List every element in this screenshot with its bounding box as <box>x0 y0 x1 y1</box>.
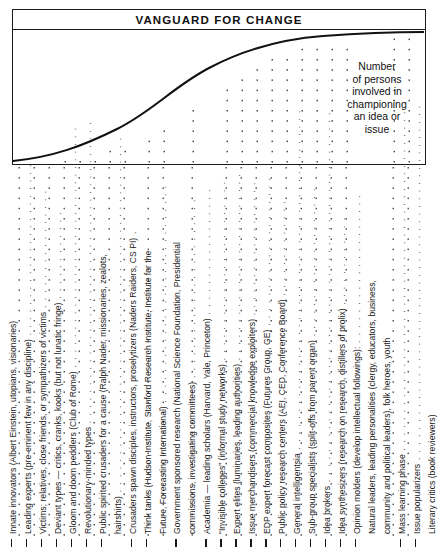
leader-dots: . . . . . . . . . . . . . . . . . . . . … <box>323 111 332 486</box>
tick-mark-row <box>12 539 426 551</box>
axis-label-revolutionary-minded-types: Revolutionary-minded types . . . . . . .… <box>84 121 93 534</box>
tick-opinion-molders <box>355 539 356 547</box>
axis-label-public-spirited-crusaders-cont: hairshirts) . . . . . . . . . . . . . . … <box>114 137 123 534</box>
axis-label-expert-elites: Expert elites (luminaries, leading autho… <box>233 173 242 534</box>
tick-government-sponsored-research <box>175 539 176 547</box>
leader-dots: . . . . . . . . . . . . . . . . . . . . … <box>218 180 227 364</box>
tick-expert-elites <box>235 539 236 547</box>
axis-label-text: Public policy research centers (AEI, CED… <box>277 299 287 534</box>
axis-label-think-tanks-cont: Future, Forecasting International) . . .… <box>159 184 168 534</box>
axis-label-innate-innovators: Innate innovators (Albert Einstein, utop… <box>9 321 18 534</box>
tick-crusaders-spawn-disciples <box>131 539 132 547</box>
tick-issue-popularizers <box>415 539 416 547</box>
leader-dots: . . . . . . . . . . . . . . . . . . . . … <box>159 184 168 406</box>
leader-dots: . . . . . . . . . . . . . . . . . <box>203 188 212 318</box>
axis-label-text: EDP expert forecast composites (Futures … <box>262 330 272 534</box>
tick-leading-experts <box>26 539 27 547</box>
tick-public-spirited-crusaders <box>101 539 102 547</box>
tick-invisible-colleges <box>220 539 221 547</box>
tick-issue-merchandisers <box>250 539 251 547</box>
leader-dots: . . . . . . . . . . . . <box>338 216 347 308</box>
axis-label-text: Government sponsored research (National … <box>172 242 182 534</box>
tick-idea-brokers <box>325 539 326 547</box>
axis-label-issue-popularizers: Issue popularizers . . . . . . . . . . .… <box>413 104 422 534</box>
axis-label-deviant-types: Deviant types — critics, cranks, kooks (… <box>54 211 63 534</box>
axis-label-text: Idea synthesizers (research on research,… <box>337 308 347 534</box>
axis-label-government-sponsored-research-cont: commissions, investigating committees) .… <box>188 198 197 534</box>
tick-general-intelligentsia <box>295 539 296 547</box>
tick-deviant-types <box>56 539 57 547</box>
axis-label-public-policy-research-centers: Public policy research centers (AEI, CED… <box>278 200 287 534</box>
axis-label-text: Future, Forecasting International) <box>158 406 168 534</box>
tick-sub-group-specialists <box>310 539 311 547</box>
axis-label-think-tanks: Think tanks (Hudson Institute, Stanford … <box>144 251 153 534</box>
axis-label-text: Opinion molders (develop intellectual fo… <box>352 347 362 534</box>
leader-dots: . . . . . . . . . . . . . <box>278 200 287 299</box>
axis-label-public-spirited-crusaders: Public spirited crusaders for a cause (R… <box>99 254 108 534</box>
leader-dots: . . . . . . . . . . . . . . . . . . . . … <box>69 127 78 372</box>
axis-label-idea-brokers: Idea brokers . . . . . . . . . . . . . .… <box>323 111 332 534</box>
axis-label-sub-group-specialists: Sub-group specialists (split-offs from p… <box>308 187 317 534</box>
leader-dots: . . . . . . . . . . . . . . . . . . . . <box>308 187 317 340</box>
axis-label-natural-leaders: Natural leaders, leading personalities (… <box>368 280 377 534</box>
tick-edp-expert-forecast-composites <box>265 539 266 547</box>
axis-label-idea-synthesizers: Idea synthesizers (research on research,… <box>338 216 347 534</box>
axis-label-text: Innate innovators (Albert Einstein, utop… <box>8 321 18 534</box>
leader-dots: . . . . . . . . . . . . . . . . . . . . <box>353 194 362 347</box>
axis-label-text: Issue popularizers <box>412 464 422 534</box>
tick-academia <box>205 539 206 547</box>
tick-revolutionary-minded-types <box>86 539 87 547</box>
axis-label-text: Academia — leading scholars (Harvard, Ya… <box>202 318 212 534</box>
axis-label-natural-leaders-cont: community and political leaders), folk h… <box>383 338 392 534</box>
tick-mass-learning-phase <box>400 539 401 547</box>
axis-label-opinion-molders: Opinion molders (develop intellectual fo… <box>353 194 362 534</box>
axis-label-text: Idea brokers <box>322 486 332 534</box>
axis-label-leading-experts: Leading experts (pre-eminent few in any … <box>24 155 33 534</box>
leader-dots: . . . . . . . . . . . . . . . . . . . . … <box>413 104 422 464</box>
axis-label-text: Sub-group specialists (split-offs from p… <box>307 340 317 534</box>
axis-label-mass-learning-phase: Mass learning phase . . . . . . . . . . … <box>398 110 407 534</box>
axis-label-text: community and political leaders), folk h… <box>382 338 392 534</box>
leader-dots: . . . . . . . . . . . . . . . . . . . . … <box>114 137 123 497</box>
leader-dots: . . . . . . . . . . . . . . . . . . . . … <box>398 110 407 454</box>
axis-label-text: Expert elites (luminaries, leading autho… <box>232 364 242 534</box>
axis-label-academia: Academia — leading scholars (Harvard, Ya… <box>203 188 212 534</box>
label-list: Innate innovators (Albert Einstein, utop… <box>0 0 438 554</box>
axis-label-text: Think tanks (Hudson Institute, Stanford … <box>143 251 153 534</box>
axis-label-text: commissions, investigating committees) <box>187 382 197 534</box>
axis-label-literary-critics: Literary critics (book reviewers) <box>428 414 437 534</box>
leader-dots: . . . . . . . . . . . . <box>54 211 63 303</box>
axis-label-text: Revolutionary-minded types <box>83 427 93 534</box>
axis-label-text: General intelligentsia <box>292 453 302 534</box>
axis-label-text: Deviant types — critics, cranks, kooks (… <box>53 303 63 534</box>
tick-think-tanks <box>146 539 147 547</box>
axis-label-text: Literary critics (book reviewers) <box>427 414 437 534</box>
axis-label-text: hairshirts) <box>113 496 123 534</box>
leader-dots: . . . . . . . . . . . . . . . . . . . . … <box>84 121 93 427</box>
axis-label-general-intelligentsia: General intelligentsia . . . . . . . . .… <box>293 109 302 534</box>
tick-innate-innovators <box>11 539 12 547</box>
axis-label-text: Issue merchandisers (commercial knowledg… <box>247 319 257 534</box>
axis-label-text: Leading experts (pre-eminent few in any … <box>23 339 33 534</box>
axis-label-text: “Invisible colleges” (informal study net… <box>217 364 227 534</box>
axis-label-issue-merchandisers: Issue merchandisers (commercial knowledg… <box>248 181 257 534</box>
leader-dots: . . . . . . . . . . . . . . . . . . . . … <box>188 198 197 382</box>
leader-dots: . <box>129 230 138 238</box>
axis-label-invisible-colleges: “Invisible colleges” (informal study net… <box>218 180 227 534</box>
axis-label-text: Mass learning phase <box>397 454 407 534</box>
axis-label-edp-expert-forecast-composites: EDP expert forecast composites (Futures … <box>263 177 272 534</box>
vanguard-for-change-figure: VANGUARD FOR CHANGE Number of persons in… <box>0 0 438 554</box>
tick-public-policy-research-centers <box>280 539 281 547</box>
tick-victims <box>41 539 42 547</box>
tick-idea-synthesizers <box>340 539 341 547</box>
axis-label-text: Public spirited crusaders for a cause (R… <box>98 254 108 534</box>
leader-dots: . . . . . . . . . . . . . . . . . . . . … <box>24 155 33 339</box>
tick-gloom-and-doom-peddlers <box>71 539 72 547</box>
axis-label-text: Crusaders spawn disciples, instructors, … <box>128 238 138 534</box>
axis-label-text: Victims; relatives, close friends, or sy… <box>38 312 48 534</box>
leader-dots: . . . . . . . . . . . . . . . . <box>39 189 48 311</box>
axis-label-text: Gloom and doom peddlers (Club of Rome) <box>68 371 78 534</box>
axis-label-gloom-and-doom-peddlers: Gloom and doom peddlers (Club of Rome) .… <box>69 127 78 534</box>
axis-label-victims: Victims; relatives, close friends, or sy… <box>39 189 48 534</box>
leader-dots: . . . . . . . . . . . . . . . . . . . . <box>263 177 272 330</box>
